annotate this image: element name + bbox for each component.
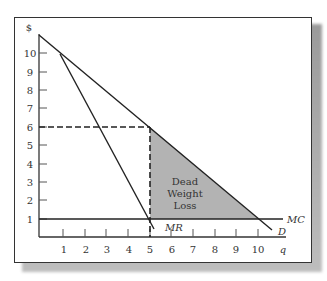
y-tick-10: 10 <box>24 48 37 59</box>
y-tick-7: 7 <box>27 103 33 114</box>
chart-svg: $ 10 9 8 7 6 5 4 3 2 1 1 2 3 4 5 6 7 8 9… <box>0 0 327 281</box>
mr-label: MR <box>164 222 183 233</box>
x-tick-1: 1 <box>61 244 67 255</box>
y-tick-4: 4 <box>27 159 33 170</box>
x-tick-10: 10 <box>252 244 265 255</box>
d-label: D <box>277 226 286 237</box>
y-tick-5: 5 <box>27 140 33 151</box>
mr-curve <box>60 54 154 229</box>
y-tick-9: 9 <box>27 67 33 78</box>
mc-label: MC <box>286 214 305 225</box>
x-tick-5: 5 <box>147 244 153 255</box>
y-tick-1: 1 <box>27 214 33 225</box>
y-axis-label: $ <box>26 22 32 33</box>
x-tick-3: 3 <box>104 244 110 255</box>
x-tick-4: 4 <box>126 244 132 255</box>
x-tick-7: 7 <box>190 244 196 255</box>
y-tick-3: 3 <box>27 177 33 188</box>
dwl-label-line3: Loss <box>174 200 197 211</box>
dwl-label-line1: Dead <box>172 176 199 187</box>
y-tick-2: 2 <box>27 195 33 206</box>
y-ticks <box>39 53 47 219</box>
x-ticks <box>63 229 258 237</box>
y-tick-8: 8 <box>27 85 33 96</box>
x-tick-8: 8 <box>212 244 218 255</box>
x-axis-label: q <box>280 244 286 255</box>
x-tick-9: 9 <box>233 244 239 255</box>
dwl-label-line2: Weight <box>167 188 202 199</box>
x-tick-6: 6 <box>169 244 175 255</box>
y-tick-6: 6 <box>27 122 33 133</box>
x-tick-2: 2 <box>83 244 89 255</box>
